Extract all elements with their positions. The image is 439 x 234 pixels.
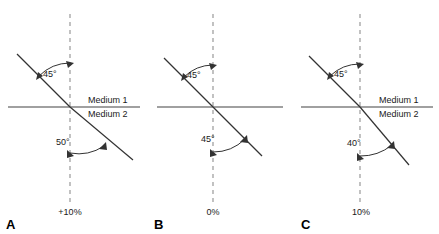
refracted-arc-arrow-start — [357, 153, 364, 161]
medium-upper-label: Medium 1 — [88, 95, 128, 105]
refracted-arc-arrow-end — [99, 142, 107, 150]
incident-angle-label: 45° — [43, 69, 57, 79]
refracted-ray — [213, 107, 262, 156]
panel-letter-a: A — [6, 218, 15, 232]
refraction-figure: 45° 50° Medium 1 Medium 2 +10% A 45° 45°… — [0, 0, 439, 234]
incident-arc-arrow-end — [356, 62, 364, 69]
medium-lower-label: Medium 2 — [379, 109, 419, 119]
incident-arc-arrow-end — [66, 61, 74, 68]
panel-c: 45° 40° Medium 1 Medium 2 10% C — [293, 0, 439, 234]
refracted-angle-arc — [70, 146, 104, 154]
panel-letter-b: B — [154, 218, 163, 232]
incident-ray — [17, 54, 70, 107]
refracted-angle-arc — [213, 139, 245, 152]
incident-angle-label: 45° — [334, 69, 348, 79]
refracted-angle-label: 50° — [56, 137, 70, 147]
medium-upper-label: Medium 1 — [379, 95, 419, 105]
percent-label: +10% — [46, 207, 94, 217]
panel-letter-c: C — [301, 218, 310, 232]
refracted-arc-arrow-end — [387, 141, 395, 149]
incident-arc-arrow-end — [209, 63, 217, 70]
refracted-arc-arrow-end — [240, 135, 248, 143]
incident-angle-label: 45° — [187, 70, 201, 80]
panel-a: 45° 50° Medium 1 Medium 2 +10% A — [0, 0, 146, 234]
refracted-angle-label: 45° — [201, 134, 215, 144]
medium-lower-label: Medium 2 — [88, 109, 128, 119]
percent-label: 10% — [337, 207, 385, 217]
panel-b: 45° 45° 0% B — [146, 0, 292, 234]
refracted-angle-label: 40° — [347, 138, 361, 148]
percent-label: 0% — [189, 207, 237, 217]
panel-b-diagram — [146, 0, 292, 234]
incident-ray — [309, 56, 360, 107]
refracted-angle-arc — [360, 145, 392, 156]
